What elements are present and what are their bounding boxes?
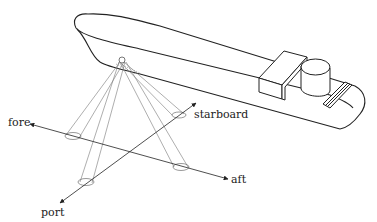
port-starboard-axis bbox=[60, 103, 196, 203]
label-starboard: starboard bbox=[194, 109, 248, 120]
ship-sonar-diagram bbox=[0, 0, 377, 222]
label-fore: fore bbox=[8, 117, 30, 128]
ship-superstructure bbox=[259, 51, 352, 108]
sonar-beams bbox=[65, 62, 189, 186]
label-aft: aft bbox=[231, 174, 246, 185]
fore-aft-axis bbox=[30, 124, 228, 179]
label-port: port bbox=[41, 207, 64, 218]
